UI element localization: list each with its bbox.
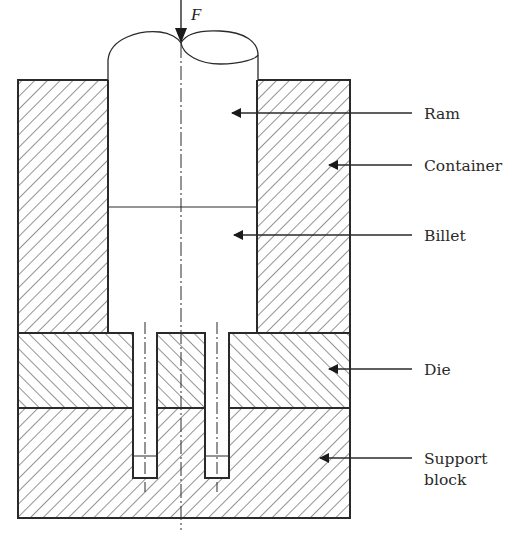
support-block — [18, 408, 350, 518]
label-die: Die — [424, 361, 451, 379]
container-right-wall — [257, 80, 350, 333]
extrusion-diagram: F Ram Container Billet Die Support block — [0, 0, 527, 536]
force-arrow — [175, 0, 187, 43]
label-support-line2: block — [424, 471, 467, 489]
label-ram: Ram — [424, 105, 460, 123]
die — [18, 333, 350, 408]
force-label: F — [190, 5, 202, 24]
label-container: Container — [424, 157, 503, 175]
label-billet: Billet — [424, 227, 466, 245]
label-support-line1: Support — [424, 450, 488, 468]
ram — [108, 31, 258, 80]
container-left-wall — [18, 80, 108, 333]
